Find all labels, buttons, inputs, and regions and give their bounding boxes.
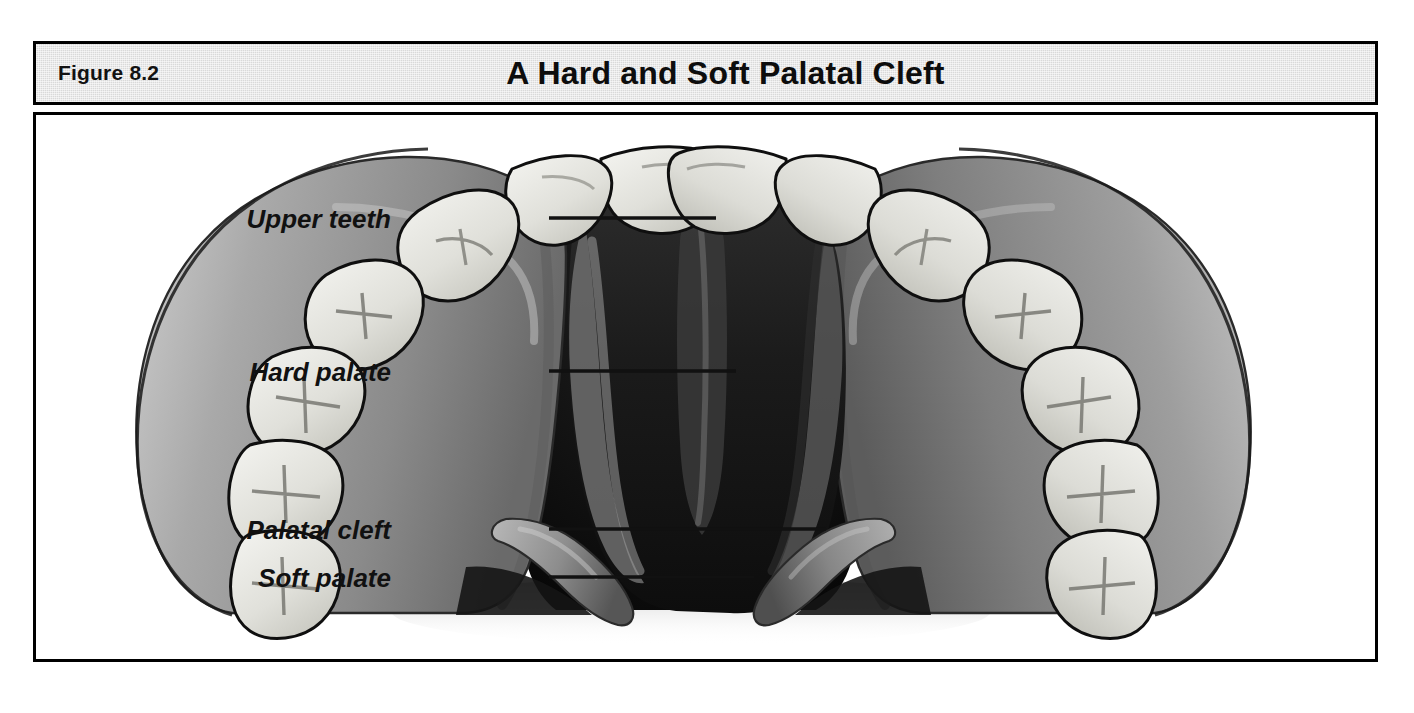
label-upper-teeth: Upper teeth	[247, 204, 391, 234]
figure-body-frame: Upper teeth Hard palate Palatal cleft So…	[33, 112, 1378, 662]
palatal-cleft-illustration: Upper teeth Hard palate Palatal cleft So…	[36, 115, 1375, 659]
tooth-right-central-incisor	[668, 147, 786, 234]
figure-title: A Hard and Soft Palatal Cleft	[36, 55, 1375, 92]
figure-root: Figure 8.2 A Hard and Soft Palatal Cleft	[0, 0, 1414, 713]
label-palatal-cleft: Palatal cleft	[246, 515, 392, 545]
label-hard-palate: Hard palate	[249, 357, 391, 387]
figure-header-bar: Figure 8.2 A Hard and Soft Palatal Cleft	[33, 41, 1378, 105]
label-soft-palate: Soft palate	[258, 563, 391, 593]
illustration-area: Upper teeth Hard palate Palatal cleft So…	[36, 115, 1375, 659]
